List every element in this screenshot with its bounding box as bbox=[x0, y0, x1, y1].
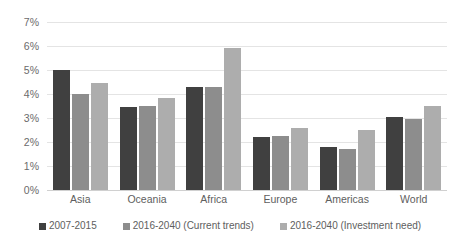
bar[interactable] bbox=[386, 117, 403, 190]
bar-chart: 7%6%5%4%3%2%1%0% AsiaOceaniaAfricaEurope… bbox=[0, 0, 460, 245]
bar[interactable] bbox=[358, 130, 375, 190]
bar-group bbox=[114, 22, 181, 190]
axis-baseline bbox=[47, 190, 447, 191]
y-axis-tick-label: 1% bbox=[24, 161, 39, 172]
bar-group bbox=[180, 22, 247, 190]
bar[interactable] bbox=[158, 98, 175, 190]
y-axis-tick-label: 4% bbox=[24, 89, 39, 100]
bar[interactable] bbox=[186, 87, 203, 190]
y-axis-tick-label: 0% bbox=[24, 185, 39, 196]
bar[interactable] bbox=[253, 137, 270, 190]
legend-item[interactable]: 2007-2015 bbox=[39, 221, 97, 231]
bar[interactable] bbox=[120, 107, 137, 190]
bar-group bbox=[380, 22, 447, 190]
bar[interactable] bbox=[320, 147, 337, 190]
bar[interactable] bbox=[424, 106, 441, 190]
x-axis-category-label: Americas bbox=[314, 194, 381, 205]
y-axis: 7%6%5%4%3%2%1%0% bbox=[0, 0, 47, 245]
y-axis-tick-label: 6% bbox=[24, 41, 39, 52]
bar[interactable] bbox=[405, 119, 422, 190]
bar-groups bbox=[47, 22, 447, 190]
legend-item[interactable]: 2016-2040 (Current trends) bbox=[123, 221, 254, 231]
plot-area bbox=[47, 22, 447, 190]
bar[interactable] bbox=[72, 94, 89, 190]
x-axis-category-label: Asia bbox=[47, 194, 114, 205]
legend-swatch-icon bbox=[39, 223, 46, 230]
bar-group bbox=[247, 22, 314, 190]
bar[interactable] bbox=[339, 149, 356, 190]
legend-label: 2016-2040 (Current trends) bbox=[133, 221, 254, 231]
x-axis-category-label: World bbox=[380, 194, 447, 205]
x-axis-category-label: Europe bbox=[247, 194, 314, 205]
bar[interactable] bbox=[139, 106, 156, 190]
y-axis-tick-label: 3% bbox=[24, 113, 39, 124]
bar[interactable] bbox=[53, 70, 70, 190]
legend-item[interactable]: 2016-2040 (Investment need) bbox=[280, 221, 421, 231]
y-axis-tick-label: 7% bbox=[24, 17, 39, 28]
x-axis-category-label: Oceania bbox=[114, 194, 181, 205]
bar[interactable] bbox=[272, 136, 289, 190]
y-axis-tick-label: 2% bbox=[24, 137, 39, 148]
legend-swatch-icon bbox=[280, 223, 287, 230]
bar[interactable] bbox=[91, 83, 108, 190]
bar-group bbox=[314, 22, 381, 190]
legend: 2007-20152016-2040 (Current trends)2016-… bbox=[0, 221, 460, 231]
x-axis: AsiaOceaniaAfricaEuropeAmericasWorld bbox=[47, 194, 447, 205]
bar[interactable] bbox=[291, 128, 308, 190]
bar[interactable] bbox=[224, 48, 241, 190]
legend-swatch-icon bbox=[123, 223, 130, 230]
legend-label: 2007-2015 bbox=[49, 221, 97, 231]
y-axis-tick-label: 5% bbox=[24, 65, 39, 76]
x-axis-category-label: Africa bbox=[180, 194, 247, 205]
bar-group bbox=[47, 22, 114, 190]
bar[interactable] bbox=[205, 87, 222, 190]
legend-label: 2016-2040 (Investment need) bbox=[290, 221, 421, 231]
